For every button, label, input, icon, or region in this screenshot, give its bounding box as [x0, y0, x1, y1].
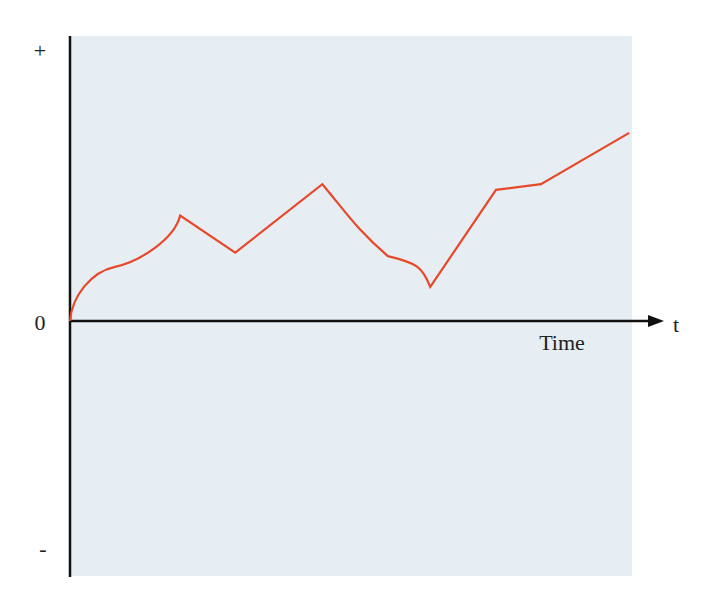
y-plus-label: + [34, 38, 46, 63]
y-zero-label: 0 [35, 310, 46, 335]
y-minus-label: - [39, 536, 46, 561]
x-axis-arrow-icon [648, 315, 664, 327]
x-axis-title: Time [539, 330, 585, 355]
plot-background [70, 36, 632, 576]
line-chart: + 0 - t Time [0, 0, 710, 601]
x-axis-end-label: t [673, 312, 679, 337]
